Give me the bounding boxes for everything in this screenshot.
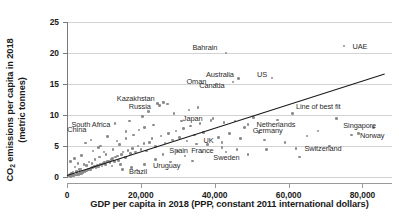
data-point xyxy=(104,163,107,166)
data-point xyxy=(147,110,150,113)
data-point xyxy=(143,142,146,145)
data-point-us xyxy=(271,77,274,80)
data-point xyxy=(92,150,95,153)
data-point-netherlands xyxy=(247,123,250,126)
data-point xyxy=(317,130,320,133)
data-point-brazil xyxy=(119,163,122,166)
data-point xyxy=(175,130,178,133)
annotation-china: China xyxy=(67,124,86,133)
data-point xyxy=(117,159,120,162)
annotation-us: US xyxy=(257,70,267,79)
data-point xyxy=(252,116,255,119)
y-axis-title-subscript: 2 xyxy=(9,164,16,168)
data-point xyxy=(125,137,128,140)
data-point xyxy=(167,132,170,135)
data-point xyxy=(111,165,114,168)
annotation-singapore: Singapore xyxy=(343,120,376,129)
x-tick-80000 xyxy=(362,184,363,188)
y-tick-label-20: 20 xyxy=(29,48,59,58)
x-tick-60000 xyxy=(289,184,290,188)
y-tick-label-0: 0 xyxy=(29,172,59,182)
data-point xyxy=(85,164,88,167)
y-tick-15 xyxy=(63,84,67,85)
data-point xyxy=(90,139,93,142)
y-tick-label-5: 5 xyxy=(29,141,59,151)
annotation-switzerland: Switzerland xyxy=(305,144,342,153)
x-tick-label-40000: 40,000 xyxy=(185,190,245,200)
data-point xyxy=(223,121,226,124)
annotation-france: France xyxy=(191,145,213,154)
y-tick-20 xyxy=(63,53,67,54)
data-point xyxy=(217,136,220,139)
data-point xyxy=(239,137,242,140)
data-point-germany xyxy=(243,126,246,129)
x-tick-40000 xyxy=(215,184,216,188)
data-point xyxy=(98,156,101,159)
annotation-canada: Canada xyxy=(199,81,224,90)
data-point-uk xyxy=(221,141,224,144)
annotation-bahrain: Bahrain xyxy=(192,43,217,52)
data-point xyxy=(189,125,192,128)
data-point xyxy=(70,172,73,175)
data-point xyxy=(186,140,189,143)
data-point xyxy=(148,141,151,144)
data-point xyxy=(116,140,119,143)
gridline-y-20 xyxy=(67,53,392,54)
data-point xyxy=(202,131,205,134)
x-tick-label-60000: 60,000 xyxy=(259,190,319,200)
data-point xyxy=(121,168,124,171)
data-point xyxy=(178,136,181,139)
y-tick-label-10: 10 xyxy=(29,110,59,120)
data-point-sweden xyxy=(247,153,250,156)
data-point xyxy=(265,148,268,151)
data-point xyxy=(228,132,231,135)
annotation-russia: Russia xyxy=(129,101,151,110)
data-point xyxy=(171,139,174,142)
data-point xyxy=(162,153,165,156)
annotation-line-of-best-fit: Line of best fit xyxy=(296,102,340,111)
data-point xyxy=(101,165,104,168)
y-tick-label-25: 25 xyxy=(29,17,59,27)
annotation-brazil: Brazil xyxy=(129,166,147,175)
data-point xyxy=(113,160,116,163)
data-point xyxy=(120,153,123,156)
data-point xyxy=(109,161,112,164)
data-point xyxy=(131,147,134,150)
data-point-norway xyxy=(350,134,353,137)
data-point-switzerland xyxy=(295,147,298,150)
data-point xyxy=(134,151,137,154)
data-point xyxy=(143,126,146,129)
x-tick-label-80000: 80,000 xyxy=(332,190,392,200)
data-point xyxy=(97,146,100,149)
x-tick-20000 xyxy=(141,184,142,188)
data-point xyxy=(116,155,119,158)
data-point xyxy=(77,162,80,165)
data-point xyxy=(234,120,237,123)
data-point xyxy=(73,157,76,160)
y-axis-title-line2: (metric tonnes) xyxy=(17,38,29,181)
data-point xyxy=(128,120,131,123)
annotation-germany: Germany xyxy=(253,125,283,134)
gridline-y-5 xyxy=(67,146,392,147)
data-point-japan xyxy=(210,119,213,122)
data-point xyxy=(184,155,187,158)
data-point xyxy=(199,122,202,125)
data-point xyxy=(188,109,191,112)
data-point xyxy=(236,148,239,151)
data-point xyxy=(263,139,266,142)
data-point xyxy=(80,168,83,171)
data-point-russia xyxy=(158,104,161,107)
data-point xyxy=(118,143,121,146)
data-point xyxy=(164,142,167,145)
y-tick-5 xyxy=(63,146,67,147)
data-point xyxy=(132,134,135,137)
x-tick-label-0: 0 xyxy=(37,190,97,200)
co2-gdp-scatter-figure: CO2 emissions per capita in 2018 (metric… xyxy=(0,0,399,220)
data-point xyxy=(154,145,157,148)
x-axis-title: GDP per capita in 2018 (PPP, constant 20… xyxy=(60,199,399,209)
data-point xyxy=(306,135,309,138)
data-point xyxy=(112,148,115,151)
data-point xyxy=(191,160,194,163)
data-point xyxy=(138,129,141,132)
data-point xyxy=(129,152,132,155)
